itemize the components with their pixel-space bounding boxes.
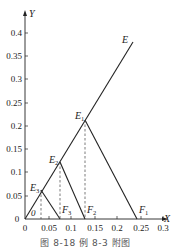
x-tick-label: 0.15	[87, 223, 103, 233]
x-tick-label: 0	[23, 223, 28, 233]
y-tick-label: 0.3	[11, 74, 23, 84]
inner-origin-label: 0	[31, 208, 36, 218]
solid-lines	[25, 42, 137, 219]
x-tick-label: 0.25	[133, 223, 149, 233]
y-tick-label: 0.2	[11, 121, 22, 131]
point-label-e3: E3	[29, 182, 39, 194]
x-tick-label: 0.05	[41, 223, 57, 233]
line-e3-f3	[41, 190, 60, 219]
y-tick-label: 0.15	[6, 144, 22, 154]
y-tick-label: 0.35	[6, 51, 22, 61]
point-label-e2: E2	[48, 154, 58, 166]
x-axis-label: X	[163, 213, 171, 224]
y-ticks	[25, 33, 28, 196]
y-tick-label: 0	[15, 214, 20, 224]
y-tick-label: 0.4	[11, 28, 23, 38]
figure-caption: 图 8-18 例 8-3 附图	[0, 236, 171, 249]
y-axis-label: Y	[29, 8, 36, 19]
point-label-f1: F1	[138, 204, 148, 216]
axes	[25, 14, 164, 219]
x-tick-label: 0.3	[157, 223, 169, 233]
y-tick-label: 0.1	[11, 167, 22, 177]
point-label-f3: F3	[61, 204, 71, 216]
point-label-e: E	[121, 34, 128, 45]
diagram-figure: 0 0.05 0.1 0.15 0.2 0.25 0.3 0.35 0.4 0 …	[0, 0, 171, 251]
point-label-f2: F2	[86, 204, 96, 216]
y-axis-arrow-icon	[23, 10, 27, 16]
x-tick-label: 0.2	[111, 223, 122, 233]
point-label-e1: E1	[74, 110, 84, 122]
x-tick-label: 0.1	[65, 223, 76, 233]
y-tick-label: 0.25	[6, 98, 22, 108]
y-tick-label: 0.05	[6, 191, 22, 201]
